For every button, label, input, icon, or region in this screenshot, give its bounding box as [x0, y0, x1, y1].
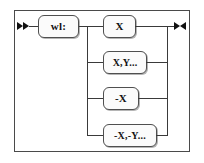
token-alt-xy-label: X,Y... [113, 58, 138, 68]
wire-left-rail [87, 26, 88, 135]
token-prefix-wl-label: wl: [51, 21, 66, 32]
token-alt-x: X [103, 15, 136, 38]
token-alt-xy: X,Y... [103, 51, 147, 74]
token-alt-neg-x-label: -X [115, 93, 127, 104]
wire-row2-right [146, 62, 168, 63]
wire-row1-right [135, 26, 168, 27]
wire-right-rail [167, 26, 168, 135]
wire-row2-left [87, 62, 104, 63]
wire-row3-left [87, 98, 104, 99]
wire-row1-left [87, 26, 104, 27]
wire-row4-right [156, 135, 168, 136]
railroad-diagram: wl: X X,Y... -X -X,-Y... [0, 0, 204, 163]
token-alt-neg-xy-label: -X,-Y... [114, 131, 146, 141]
wire-row4-left [87, 135, 104, 136]
end-arrow-left-icon [180, 22, 186, 30]
token-alt-x-label: X [115, 21, 123, 32]
wire-row3-right [138, 98, 168, 99]
token-prefix-wl: wl: [38, 15, 79, 38]
token-alt-neg-xy: -X,-Y... [103, 124, 157, 147]
token-alt-neg-x: -X [103, 87, 139, 110]
